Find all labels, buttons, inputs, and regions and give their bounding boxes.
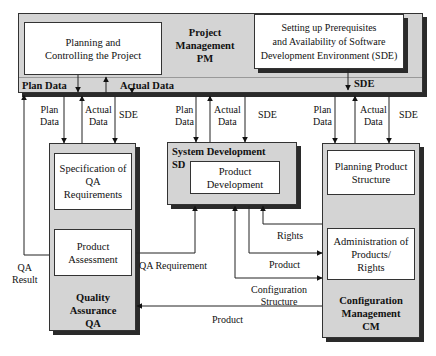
sd-plan-data-line2: Data xyxy=(175,116,194,128)
configuration-structure-label: Configuration Structure xyxy=(251,284,307,308)
product-to-cm-label: Product xyxy=(269,259,300,271)
qa-plan-data-line1: Plan xyxy=(40,104,59,116)
sd-actual-data-label: Actual Data xyxy=(214,104,241,128)
qa-result-line1: QA xyxy=(12,262,38,274)
sd-plan-data-label: Plan Data xyxy=(175,104,194,128)
cm-sde-label: SDE xyxy=(399,109,418,121)
rights-label: Rights xyxy=(277,230,303,242)
sd-actual-data-line1: Actual xyxy=(214,104,241,116)
qa-actual-data-line2: Data xyxy=(85,116,112,128)
cm-actual-data-line1: Actual xyxy=(360,104,387,116)
qa-result-label: QA Result xyxy=(12,262,38,286)
qa-plan-data-line2: Data xyxy=(40,116,59,128)
cm-actual-data-line2: Data xyxy=(360,116,387,128)
sd-sde-label: SDE xyxy=(258,109,277,121)
qa-requirement-label: QA Requirement xyxy=(139,260,207,272)
qa-result-line2: Result xyxy=(12,274,38,286)
configuration-structure-line2: Structure xyxy=(251,296,307,308)
sd-plan-data-line1: Plan xyxy=(175,104,194,116)
product-to-qa-label: Product xyxy=(212,314,243,326)
flow-arrows xyxy=(0,0,436,356)
configuration-structure-line1: Configuration xyxy=(251,284,307,296)
cm-plan-data-label: Plan Data xyxy=(313,104,332,128)
qa-plan-data-label: Plan Data xyxy=(40,104,59,128)
cm-plan-data-line1: Plan xyxy=(313,104,332,116)
qa-actual-data-line1: Actual xyxy=(85,104,112,116)
cm-actual-data-label: Actual Data xyxy=(360,104,387,128)
qa-sde-label: SDE xyxy=(119,109,138,121)
cm-plan-data-line2: Data xyxy=(313,116,332,128)
qa-actual-data-label: Actual Data xyxy=(85,104,112,128)
sd-actual-data-line2: Data xyxy=(214,116,241,128)
